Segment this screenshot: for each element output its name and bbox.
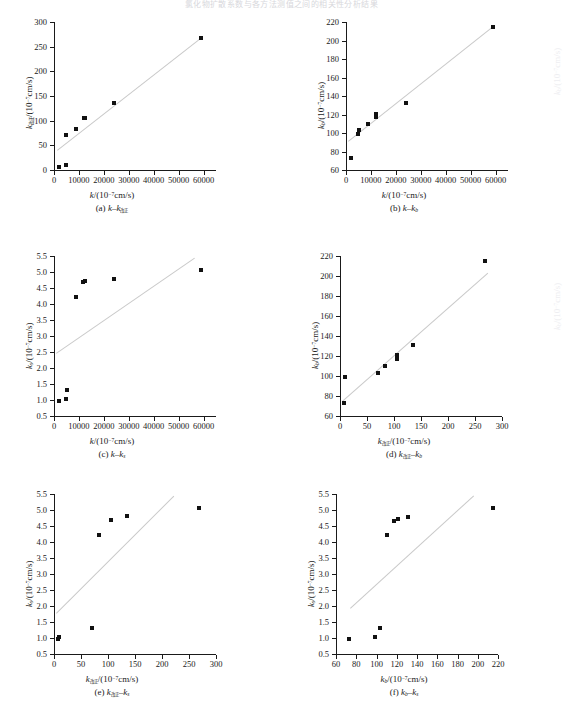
y-tick-b-2 [342,133,346,134]
data-point-d-2 [376,371,380,375]
y-tick-label-f-7: 4.0 [299,538,329,547]
plot-area-d: 6080100120140160180200220050100150200250… [340,256,502,416]
y-tick-label-c-7: 4.0 [17,300,47,309]
y-tick-label-e-0: 0.5 [17,650,47,659]
y-tick-c-7 [50,304,54,305]
panel-caption-d: (d) k改正–kb [300,449,508,459]
y-tick-label-c-0: 0.5 [17,412,47,421]
y-tick-b-7 [342,41,346,42]
y-tick-e-7 [50,542,54,543]
y-tick-label-e-10: 5.5 [17,490,47,499]
panel-a: 0501001502002503000100002000030000400005… [8,12,216,190]
y-tick-d-4 [336,336,340,337]
trend-line-a [57,36,203,150]
panel-d: 6080100120140160180200220050100150200250… [300,250,508,440]
edge-ghost-label-0: kb/(10−7cm/s) [552,48,562,95]
panel-caption-f: (f) kb–ks [300,687,508,697]
y-tick-d-5 [336,316,340,317]
y-tick-c-10 [50,256,54,257]
y-tick-e-9 [50,510,54,511]
data-point-d-0 [342,401,346,405]
y-tick-f-5 [332,574,336,575]
y-tick-f-2 [332,622,336,623]
y-axis-line-b [346,22,347,170]
y-tick-label-c-8: 4.5 [17,284,47,293]
x-axis-title-d: k改正/(10−7cm/s) [300,436,508,446]
data-point-a-7 [199,36,203,40]
data-point-b-0 [349,156,353,160]
y-tick-b-6 [342,59,346,60]
y-axis-title-d: kb/(10−7cm/s) [310,322,320,369]
x-axis-title-a: k/(10−7cm/s) [8,190,216,200]
y-tick-c-1 [50,400,54,401]
y-tick-d-6 [336,296,340,297]
data-point-a-0 [57,165,61,169]
x-axis-title-c: k/(10−7cm/s) [8,436,216,446]
data-point-f-1 [373,635,377,639]
data-point-b-4 [374,115,378,119]
y-tick-label-b-8: 220 [309,18,339,27]
plot-area-c: 0.51.01.52.02.53.03.54.04.55.05.50100002… [54,256,216,416]
data-point-b-2 [357,128,361,132]
y-tick-d-1 [336,396,340,397]
trend-line-f [350,496,474,609]
data-point-f-3 [385,533,389,537]
y-tick-e-2 [50,622,54,623]
y-tick-a-2 [50,121,54,122]
data-point-f-2 [378,626,382,630]
y-tick-e-6 [50,558,54,559]
y-tick-label-d-1: 80 [303,392,333,401]
data-point-f-5 [396,517,400,521]
y-tick-label-b-6: 180 [309,55,339,64]
edge-ghost-label-1: kb/(10−7cm/s) [552,283,562,330]
y-axis-title-c: ks/(10−7cm/s) [24,322,34,369]
data-point-c-5 [83,279,87,283]
x-tick-label-a-6: 60000 [182,176,226,185]
y-tick-a-6 [50,22,54,23]
y-tick-label-d-0: 60 [303,412,333,421]
y-tick-e-10 [50,494,54,495]
y-tick-f-1 [332,638,336,639]
y-tick-label-a-1: 50 [17,141,47,150]
x-tick-label-c-6: 60000 [182,422,226,431]
y-tick-c-8 [50,288,54,289]
y-tick-label-d-6: 180 [303,292,333,301]
y-tick-b-8 [342,22,346,23]
y-tick-label-d-2: 100 [303,372,333,381]
y-axis-line-d [340,256,341,416]
y-tick-label-e-7: 4.0 [17,538,47,547]
data-point-a-2 [64,133,68,137]
y-axis-line-c [54,256,55,416]
y-tick-label-e-9: 5.0 [17,506,47,515]
data-point-c-1 [64,397,68,401]
data-point-d-1 [343,375,347,379]
page-header-fragment: 氯化物扩散系数与各方法测值之间的相关性分析结果 [0,0,563,9]
y-tick-label-f-8: 4.5 [299,522,329,531]
plot-area-b: 6080100120140160180200220010000200003000… [346,22,508,170]
y-tick-f-4 [332,590,336,591]
y-tick-label-e-8: 4.5 [17,522,47,531]
y-tick-d-8 [336,256,340,257]
panel-caption-a: (a) k–k改正 [8,203,216,213]
y-tick-d-7 [336,276,340,277]
y-tick-label-b-5: 160 [309,74,339,83]
y-tick-label-b-7: 200 [309,37,339,46]
panel-caption-b: (b) k–kb [300,203,508,213]
data-point-e-4 [109,518,113,522]
data-point-f-6 [406,515,410,519]
y-tick-label-c-2: 1.5 [17,380,47,389]
x-tick-label-e-6: 300 [194,660,238,669]
data-point-b-1 [356,132,360,136]
x-axis-title-f: kb/(10−7cm/s) [300,674,508,684]
data-point-d-7 [483,259,487,263]
y-tick-label-b-0: 60 [309,166,339,175]
panel-f: 0.51.01.52.02.53.03.54.04.55.05.56080100… [300,488,508,678]
data-point-e-6 [197,506,201,510]
y-tick-b-1 [342,152,346,153]
y-tick-c-5 [50,336,54,337]
y-tick-f-7 [332,542,336,543]
y-tick-label-f-2: 1.5 [299,618,329,627]
y-tick-label-f-1: 1.0 [299,634,329,643]
y-tick-label-a-0: 0 [17,166,47,175]
y-tick-f-8 [332,526,336,527]
